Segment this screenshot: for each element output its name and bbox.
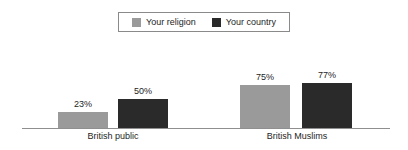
bar-british-public-your-religion: 23% bbox=[58, 112, 108, 128]
x-axis-baseline bbox=[22, 128, 390, 129]
bar-value-label: 77% bbox=[318, 71, 336, 80]
bar-british-muslims-your-country: 77% bbox=[302, 83, 352, 128]
x-axis-group-label-british-muslims: British Muslims bbox=[267, 132, 328, 141]
plot-area: 23% 50% British public 75% 77% British M… bbox=[0, 0, 408, 150]
grouped-bar-chart: Your religion Your country 23% 50% Briti… bbox=[0, 0, 408, 150]
bar-value-label: 23% bbox=[74, 100, 92, 109]
bar-british-public-your-country: 50% bbox=[118, 99, 168, 128]
bar-value-label: 75% bbox=[256, 73, 274, 82]
bar-value-label: 50% bbox=[134, 87, 152, 96]
bar-british-muslims-your-religion: 75% bbox=[240, 85, 290, 128]
x-axis-group-label-british-public: British public bbox=[87, 132, 138, 141]
